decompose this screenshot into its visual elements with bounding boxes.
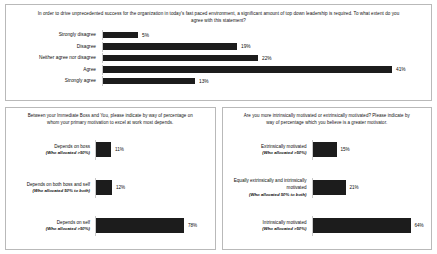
bar-row-track: 5% xyxy=(102,30,425,40)
bar-row-label-sub: (Who allocated 50% to both) xyxy=(227,192,307,198)
leadership-agreement-chart-panel: In order to drive unprecedented success … xyxy=(5,4,432,101)
right-chart-title: Are you more intrinsically motivated or … xyxy=(223,108,432,131)
bar-row-track: 21% xyxy=(312,178,426,198)
bar-row-label-main: Extrinsically motivated xyxy=(261,144,306,149)
bar-value-label: 21% xyxy=(350,185,359,190)
bar-row-label-main2: intrinsically motivated xyxy=(284,178,306,190)
bar-value-label: 19% xyxy=(241,44,251,49)
top-chart-title-line1: In order to drive unprecedented success … xyxy=(38,11,292,16)
right-chart-title-line3: believe is a greater motivator. xyxy=(327,120,387,125)
bar-fill xyxy=(103,43,237,50)
bar-row: Depends on boss (Who allocated >50%) 11% xyxy=(10,140,209,160)
bar-row-label: Equally extrinsically and intrinsically … xyxy=(227,178,312,198)
motivation-source-chart-panel: Between your Immediate Boss and You, ple… xyxy=(5,107,216,250)
left-chart-plot-area: Depends on boss (Who allocated >50%) 11%… xyxy=(6,131,215,249)
bar-fill xyxy=(96,218,184,233)
bar-value-label: 5% xyxy=(142,33,149,38)
bar-row: Intrinsically motivated (Who allocated >… xyxy=(227,216,426,236)
bar-fill xyxy=(103,78,195,85)
bar-row-label: Strongly disagree xyxy=(10,32,102,38)
bar-fill xyxy=(313,180,346,195)
bar-value-label: 41% xyxy=(396,67,406,72)
bar-row: Agree 41% xyxy=(10,65,425,75)
bar-row-track: 22% xyxy=(102,53,425,63)
bar-row: Equally extrinsically and intrinsically … xyxy=(227,178,426,198)
bar-row: Strongly disagree 5% xyxy=(10,30,425,40)
bar-row-track: 15% xyxy=(312,140,426,160)
bar-value-label: 22% xyxy=(262,56,272,61)
bar-row-track: 13% xyxy=(102,76,425,86)
bar-row-track: 64% xyxy=(312,216,426,236)
bar-fill xyxy=(96,180,112,195)
bar-row-label-main: Depends on both boss and self xyxy=(27,182,90,187)
bar-row: Depends on self (Who allocated >50%) 78% xyxy=(10,216,209,236)
top-chart-title: In order to drive unprecedented success … xyxy=(6,5,431,28)
bar-fill xyxy=(96,142,111,157)
left-chart-title: Between your Immediate Boss and You, ple… xyxy=(6,108,215,131)
bar-row-label: Strongly agree xyxy=(10,78,102,84)
bar-row-label: Depends on both boss and self (Who alloc… xyxy=(10,182,95,195)
bar-fill xyxy=(103,55,258,62)
right-chart-plot-area: Extrinsically motivated (Who allocated >… xyxy=(223,131,432,249)
bar-row-label-sub: (Who allocated >50%) xyxy=(10,226,90,232)
bar-value-label: 15% xyxy=(341,147,350,152)
top-chart-plot-area: Strongly disagree 5% Disagree 19% Neithe… xyxy=(6,28,431,92)
bar-row-label-main: Depends on self xyxy=(57,220,90,225)
bar-fill xyxy=(103,32,138,39)
bar-row-label: Extrinsically motivated (Who allocated >… xyxy=(227,144,312,157)
bar-row-label-main: Intrinsically motivated xyxy=(263,220,307,225)
left-chart-title-line1: Between your Immediate Boss and You, ple… xyxy=(28,113,148,118)
bar-row-track: 78% xyxy=(95,216,209,236)
bar-row-label-main: Equally extrinsically and xyxy=(234,178,283,183)
bar-row-label: Depends on boss (Who allocated >50%) xyxy=(10,144,95,157)
bar-row-track: 11% xyxy=(95,140,209,160)
bar-value-label: 12% xyxy=(116,185,125,190)
bar-row-label: Agree xyxy=(10,67,102,73)
bar-value-label: 64% xyxy=(415,223,424,228)
left-chart-title-line3: excel at work most depends. xyxy=(115,120,173,125)
bar-row: Extrinsically motivated (Who allocated >… xyxy=(227,140,426,160)
bar-row-label-sub: (Who allocated >50%) xyxy=(227,150,307,156)
bar-row-label: Depends on self (Who allocated >50%) xyxy=(10,220,95,233)
bar-row-track: 12% xyxy=(95,178,209,198)
bar-row-label: Intrinsically motivated (Who allocated >… xyxy=(227,220,312,233)
bar-row: Disagree 19% xyxy=(10,42,425,52)
bar-row-label-sub: (Who allocated 50% to both) xyxy=(10,188,90,194)
bar-row-label: Neither agree nor disagree xyxy=(10,55,102,61)
bar-value-label: 78% xyxy=(188,223,197,228)
bar-row-track: 19% xyxy=(102,42,425,52)
bar-row-label-main: Depends on boss xyxy=(54,144,90,149)
bar-fill xyxy=(313,142,337,157)
bar-value-label: 13% xyxy=(199,79,209,84)
bar-fill xyxy=(313,218,411,233)
bar-fill xyxy=(103,66,392,73)
bottom-charts-row: Between your Immediate Boss and You, ple… xyxy=(5,107,432,250)
bar-row: Neither agree nor disagree 22% xyxy=(10,53,425,63)
bar-row-label: Disagree xyxy=(10,44,102,50)
survey-charts-page: In order to drive unprecedented success … xyxy=(0,0,437,254)
bar-row: Strongly agree 13% xyxy=(10,76,425,86)
bar-row-label-sub: (Who allocated >50%) xyxy=(227,226,307,232)
intrinsic-extrinsic-chart-panel: Are you more intrinsically motivated or … xyxy=(222,107,433,250)
bar-row-track: 41% xyxy=(102,65,425,75)
bar-value-label: 11% xyxy=(115,147,124,152)
right-chart-title-line1: Are you more intrinsically motivated or … xyxy=(244,113,347,118)
bar-row-label-sub: (Who allocated >50%) xyxy=(10,150,90,156)
bar-row: Depends on both boss and self (Who alloc… xyxy=(10,178,209,198)
